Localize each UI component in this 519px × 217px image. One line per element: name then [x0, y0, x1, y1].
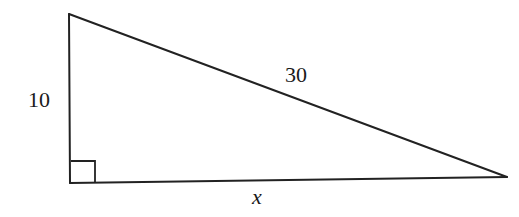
hypotenuse [69, 14, 507, 177]
hypotenuse-label: 30 [285, 62, 307, 87]
vertical-leg-label: 10 [28, 87, 50, 112]
vertical-leg [69, 14, 70, 183]
horizontal-leg-label: x [251, 184, 262, 209]
horizontal-leg [70, 177, 507, 183]
right-angle-marker-icon [71, 161, 95, 183]
right-triangle-diagram: 10 30 x [0, 0, 519, 217]
